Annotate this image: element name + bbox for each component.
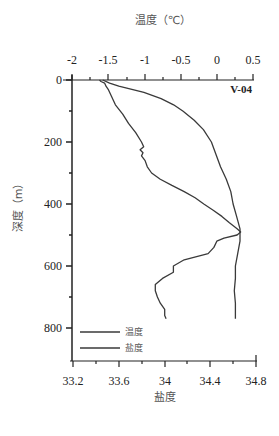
depth-tick-label: 200 [44,135,62,149]
top-tick-label: 0 [214,53,220,67]
top-axis-tick-labels: -2 -1.5 -1 -0.5 0 0.5 [67,53,261,67]
top-axis-title: 温度（℃） [135,13,191,27]
chart: 温度（℃） -2 -1.5 -1 -0.5 0 0.5 V-04 [0,0,279,436]
salinity-tick-label: 34.8 [246,374,267,388]
y-axis-title: 深度（m） [11,178,25,233]
bottom-axis-title: 盐度 [154,390,176,404]
left-axis-tick-labels: 0 200 400 600 800 [44,73,62,335]
top-tick-label: -2 [67,53,77,67]
top-axis [63,74,254,80]
top-tick-label: -1.5 [99,53,118,67]
top-tick-label: 0.5 [246,53,261,67]
top-tick-label: -1 [140,53,150,67]
depth-tick-label: 600 [44,259,62,273]
depth-tick-label: 400 [44,197,62,211]
series-layer [100,80,241,319]
legend-label-salinity: 盐度 [125,342,143,353]
salinity-tick-label: 34 [159,374,171,388]
left-axis [66,75,72,361]
temperature-line [100,80,241,319]
station-label: V-04 [230,83,252,95]
legend-label-temperature: 温度 [125,326,143,337]
bottom-axis [70,355,257,367]
salinity-tick-label: 33.2 [63,374,84,388]
depth-tick-label: 0 [56,73,62,87]
salinity-tick-label: 34.4 [200,374,221,388]
depth-tick-label: 800 [44,321,62,335]
top-tick-label: -0.5 [172,53,191,67]
salinity-tick-label: 33.6 [109,374,130,388]
legend: 温度 盐度 [80,326,143,353]
bottom-axis-tick-labels: 33.2 33.6 34 34.4 34.8 [63,374,267,388]
